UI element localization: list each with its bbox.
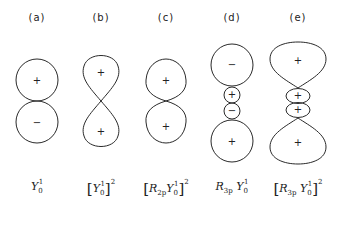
formula-e-R-sub: 3p	[288, 189, 297, 197]
sign-a-2: −	[33, 117, 41, 128]
lobe-b-lower	[83, 101, 119, 147]
sign-b-1: +	[97, 67, 105, 78]
sign-e-2: +	[294, 90, 302, 101]
formula-b-Y-sub: 0	[100, 189, 104, 197]
formula-e-Y-sub: 0	[307, 189, 311, 197]
formula-a-Y-sub: 0	[38, 187, 42, 195]
sign-c-2: +	[162, 121, 170, 132]
sign-e-3: +	[294, 104, 302, 115]
sign-d-4: +	[228, 136, 236, 147]
formula-d: R3p Y01	[216, 178, 249, 195]
formula-e-R: R	[279, 182, 287, 195]
sign-d-2: +	[228, 89, 236, 100]
formula-c-power: 2	[184, 178, 188, 186]
sign-d-3: −	[228, 105, 236, 116]
sign-e-1: +	[294, 55, 302, 66]
formula-c-R: R	[149, 182, 157, 195]
panel-a-shape	[16, 59, 58, 143]
formula-d-Y-sup: 1	[244, 178, 248, 186]
formula-d-R-sub: 3p	[224, 187, 233, 195]
formula-c-R-sub: 2p	[157, 189, 166, 197]
formula-e-power: 2	[318, 178, 322, 186]
sign-b-2: +	[97, 126, 105, 137]
sign-d-1: −	[228, 59, 236, 70]
formula-c: [R2pY01]2	[143, 178, 189, 198]
sign-e-4: +	[294, 137, 302, 148]
sign-c-1: +	[162, 75, 170, 86]
formula-d-Y: Y	[236, 180, 243, 193]
formula-e-Y: Y	[300, 182, 307, 195]
formula-a: Y01	[31, 178, 43, 195]
formula-b: [Y01]2	[87, 178, 115, 198]
formula-d-Y-sub: 0	[244, 187, 248, 195]
formula-a-Y-sup: 1	[39, 178, 43, 186]
formula-e: [R3p Y01]2	[273, 178, 322, 198]
lobe-b-upper	[83, 56, 119, 102]
sign-a-1: +	[33, 75, 41, 86]
formula-b-power: 2	[111, 178, 115, 186]
